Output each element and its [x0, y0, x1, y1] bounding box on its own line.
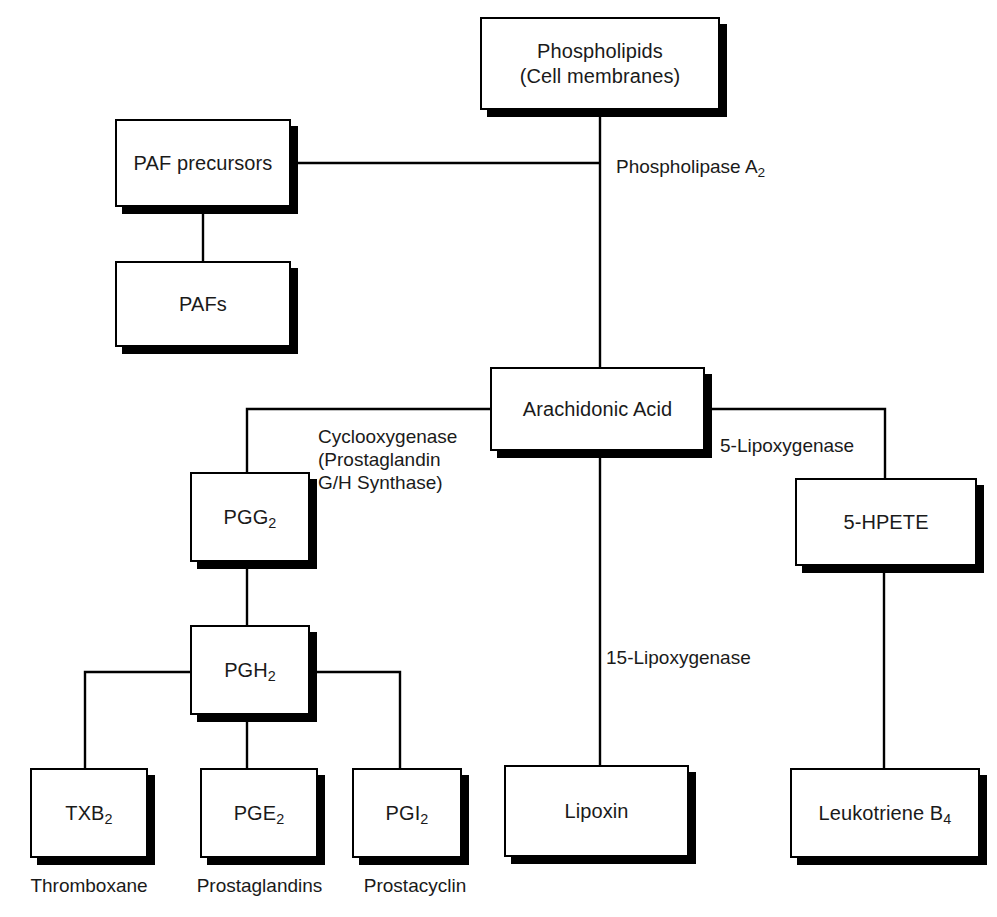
- node-paf_precursors[interactable]: PAF precursors: [115, 119, 291, 207]
- node-leukotriene[interactable]: Leukotriene B4: [790, 768, 980, 858]
- caption-prostacyclin: Prostacyclin: [340, 875, 490, 897]
- node-label-pgh2: PGH2: [218, 658, 282, 683]
- node-txb2[interactable]: TXB2: [30, 768, 148, 858]
- node-label-arachidonic: Arachidonic Acid: [517, 397, 678, 422]
- node-label-pge2: PGE2: [228, 801, 291, 826]
- node-pgh2[interactable]: PGH2: [190, 625, 310, 715]
- caption-prostaglandins: Prostaglandins: [177, 875, 342, 897]
- node-label-leukotriene: Leukotriene B4: [813, 801, 958, 826]
- edge-label-phospholipase_a2: Phospholipase A2: [616, 155, 765, 178]
- node-label-lipoxin: Lipoxin: [558, 799, 634, 824]
- edge-label-lipoxygenase_15: 15-Lipoxygenase: [606, 646, 751, 669]
- node-label-txb2: TXB2: [59, 801, 118, 826]
- connector-pgh2-to-pgi2: [310, 672, 400, 768]
- node-lipoxin[interactable]: Lipoxin: [504, 765, 689, 857]
- node-pgi2[interactable]: PGI2: [352, 768, 462, 858]
- node-phospholipids[interactable]: Phospholipids(Cell membranes): [480, 17, 720, 110]
- node-pgg2[interactable]: PGG2: [190, 472, 310, 562]
- node-label-hpete: 5-HPETE: [837, 510, 934, 535]
- node-pge2[interactable]: PGE2: [200, 768, 318, 858]
- edge-label-cyclooxygenase: Cyclooxygenase(ProstaglandinG/H Synthase…: [318, 425, 457, 495]
- node-hpete[interactable]: 5-HPETE: [795, 478, 977, 566]
- node-pafs[interactable]: PAFs: [115, 261, 291, 347]
- node-label-pafs: PAFs: [173, 292, 233, 317]
- node-label-paf_precursors: PAF precursors: [128, 151, 279, 176]
- node-label-pgi2: PGI2: [380, 801, 435, 826]
- connector-pgh2-to-txb2: [85, 672, 190, 768]
- caption-thromboxane: Thromboxane: [9, 875, 169, 897]
- node-label-pgg2: PGG2: [218, 505, 283, 530]
- node-label-phospholipids: Phospholipids(Cell membranes): [514, 39, 687, 89]
- pathway-diagram: Phospholipids(Cell membranes)PAF precurs…: [0, 0, 997, 917]
- node-arachidonic[interactable]: Arachidonic Acid: [490, 367, 705, 451]
- edge-label-lipoxygenase_5: 5-Lipoxygenase: [720, 434, 854, 457]
